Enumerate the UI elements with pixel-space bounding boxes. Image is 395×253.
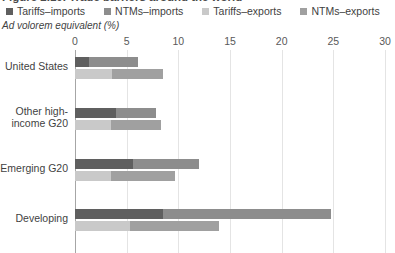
bar-group [75,50,385,101]
bar-segment-ntms-imports [163,209,331,219]
bar-segment-tariffs-exports [75,221,130,231]
legend-swatch-tariffs-exports [202,8,209,15]
bar-segment-tariffs-imports [75,209,163,219]
y-axis-category-labels: United StatesOther high- income G20Emerg… [0,50,72,253]
bar-exports[interactable] [75,120,161,130]
legend-label-tariffs-imports: Tariffs–imports [17,6,85,17]
bar-segment-ntms-imports [116,108,155,118]
chart-legend: Tariffs–imports NTMs–imports Tariffs–exp… [6,5,391,18]
legend-item-tariffs-imports[interactable]: Tariffs–imports [6,6,85,17]
bar-group [75,152,385,203]
category-label-other-high-income-g20: Other high- income G20 [0,105,68,129]
bar-exports[interactable] [75,171,175,181]
bar-segment-ntms-exports [112,69,163,79]
legend-item-ntms-exports[interactable]: NTMs–exports [300,6,379,17]
category-label-developing: Developing [0,212,68,224]
bar-exports[interactable] [75,69,163,79]
x-tick-0: 0 [72,35,78,47]
bar-segment-ntms-imports [133,159,199,169]
bar-segment-ntms-imports [89,57,138,67]
x-axis-tick-labels: 051015202530 [0,35,395,49]
legend-swatch-ntms-imports [104,8,111,15]
legend-label-ntms-imports: NTMs–imports [115,6,183,17]
bar-segment-tariffs-imports [75,57,89,67]
category-label-emerging-g20: Emerging G20 [0,162,68,174]
bar-imports[interactable] [75,209,331,219]
x-tick-30: 30 [379,35,391,47]
bar-segment-tariffs-exports [75,120,111,130]
chart-title: Figure 2.10. Trade barriers around the w… [2,0,342,3]
plot-area [75,50,385,253]
legend-swatch-tariffs-imports [6,8,13,15]
bar-imports[interactable] [75,57,138,67]
x-tick-25: 25 [327,35,339,47]
bar-segment-tariffs-imports [75,108,116,118]
x-tick-10: 10 [172,35,184,47]
legend-item-ntms-imports[interactable]: NTMs–imports [104,6,183,17]
bar-group [75,202,385,253]
legend-item-tariffs-exports[interactable]: Tariffs–exports [202,6,281,17]
axis-unit-label: Ad volorem equivalent (%) [2,20,119,31]
legend-label-ntms-exports: NTMs–exports [311,6,379,17]
bar-imports[interactable] [75,159,199,169]
legend-swatch-ntms-exports [300,8,307,15]
bar-segment-ntms-exports [111,120,161,130]
x-tick-15: 15 [224,35,236,47]
gridline-30 [385,50,386,253]
chart-figure: Figure 2.10. Trade barriers around the w… [0,0,395,253]
legend-label-tariffs-exports: Tariffs–exports [213,6,281,17]
bar-segment-tariffs-exports [75,171,111,181]
x-tick-5: 5 [124,35,130,47]
x-tick-20: 20 [276,35,288,47]
category-label-united-states: United States [0,60,68,72]
bar-segment-tariffs-imports [75,159,133,169]
bar-group [75,101,385,152]
bar-imports[interactable] [75,108,156,118]
bar-segment-ntms-exports [130,221,219,231]
bar-segment-tariffs-exports [75,69,112,79]
bar-segment-ntms-exports [111,171,175,181]
bar-exports[interactable] [75,221,219,231]
